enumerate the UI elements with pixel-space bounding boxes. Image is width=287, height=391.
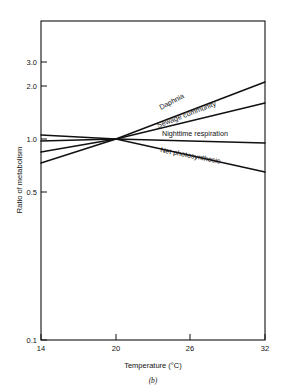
x-tick-label-32: 32 <box>261 344 269 353</box>
x-axis-tick-labels: 14 20 26 32 <box>37 344 269 353</box>
y-tick-label-0.1: 0.1 <box>27 336 37 345</box>
y-tick-label-1.0: 1.0 <box>27 135 37 144</box>
y-tick-label-0.5: 0.5 <box>27 188 37 197</box>
y-tick-label-3.0: 3.0 <box>27 58 37 67</box>
series-label-net-photosynthesis: Net photosynthesis <box>160 145 222 166</box>
series-label-daphnia: Daphnia <box>158 91 186 112</box>
plot-frame <box>41 21 265 340</box>
x-tick-label-26: 26 <box>186 344 194 353</box>
y-axis-title: Ratio of metabolism <box>15 147 24 213</box>
series-line-daphnia <box>41 82 265 163</box>
x-tick-label-14: 14 <box>37 344 45 353</box>
series-label-nighttime-respiration: Nighttime respiration <box>162 129 228 138</box>
x-axis-ticks <box>41 334 265 340</box>
figure-caption: (b) <box>149 376 158 385</box>
series-line-sewage-community <box>41 103 265 152</box>
y-tick-label-2.0: 2.0 <box>27 82 37 91</box>
series-line-nighttime-respiration <box>41 139 265 143</box>
data-series-group <box>41 82 265 172</box>
y-axis-tick-labels: 3.0 2.0 1.0 0.5 0.1 <box>27 58 37 345</box>
x-axis-title: Temperature (°C) <box>124 361 182 370</box>
y-axis-ticks <box>41 62 47 340</box>
figure-panel-b: 3.0 2.0 1.0 0.5 0.1 Ratio of metabolism … <box>0 0 287 391</box>
x-tick-label-20: 20 <box>112 344 120 353</box>
